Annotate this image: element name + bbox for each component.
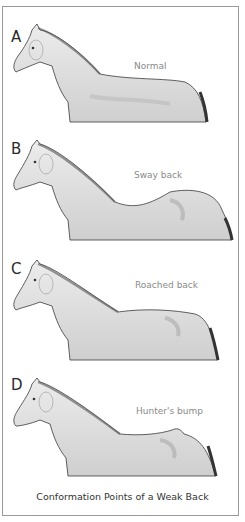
panel-a: A Normal xyxy=(0,6,245,126)
horse-normal-illustration xyxy=(0,6,245,126)
panel-label: Normal xyxy=(134,61,167,71)
panel-d: D Hunter's bump xyxy=(0,370,245,490)
panel-letter: C xyxy=(11,260,21,278)
panel-label: Hunter's bump xyxy=(136,406,203,416)
panel-letter: A xyxy=(11,28,21,46)
horse-hunters-bump-illustration xyxy=(0,370,245,490)
panel-b: B Sway back xyxy=(0,130,245,250)
panel-label: Roached back xyxy=(135,280,198,290)
figure-caption: Conformation Points of a Weak Back xyxy=(0,491,245,502)
panel-label: Sway back xyxy=(134,170,182,180)
panel-letter: B xyxy=(11,140,21,158)
panel-letter: D xyxy=(11,376,23,394)
panel-c: C Roached back xyxy=(0,250,245,370)
horse-sway-back-illustration xyxy=(0,130,245,250)
horse-roached-back-illustration xyxy=(0,250,245,370)
